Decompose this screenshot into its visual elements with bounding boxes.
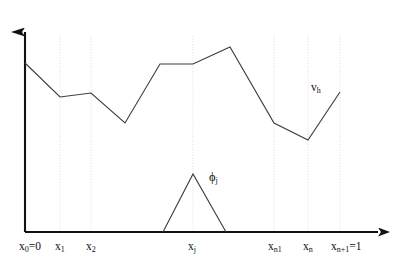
tick-label-xnp1-sub: n+1 [337,245,350,254]
tick-label-xj-sub: j [194,245,196,254]
tick-label-xn-sub: n [309,245,313,254]
curve-label-phi-j-base: ϕ [209,170,216,184]
tick-label-xnp1: xn+1=1 [331,241,362,253]
tick-label-x0-suffix: =0 [29,240,41,252]
curve-label-vh: vh [311,82,321,94]
tick-label-x2: x2 [86,241,96,253]
tick-label-xj: xj [188,241,196,253]
tick-label-x1: x1 [55,241,65,253]
tick-label-x0: x0=0 [19,241,41,253]
curve-vh [25,47,340,140]
tick-label-xn1-sub: n1 [274,245,282,254]
curve-label-phi-j-sub: j [216,176,218,185]
curve-label-phi-j: ϕj [209,171,218,184]
figure-svg [0,0,406,270]
curve-label-vh-sub: h [317,86,321,95]
tick-label-x1-sub: 1 [61,245,65,254]
tick-label-x2-sub: 2 [92,245,96,254]
tick-label-xnp1-suffix: =1 [349,240,361,252]
tick-label-xn: xn [303,241,313,253]
tick-label-xn1: xn1 [268,241,282,253]
gridlines [60,36,340,231]
figure-canvas: x0=0 x1 x2 xj xn1 xn xn+1=1 vh ϕj [0,0,406,270]
